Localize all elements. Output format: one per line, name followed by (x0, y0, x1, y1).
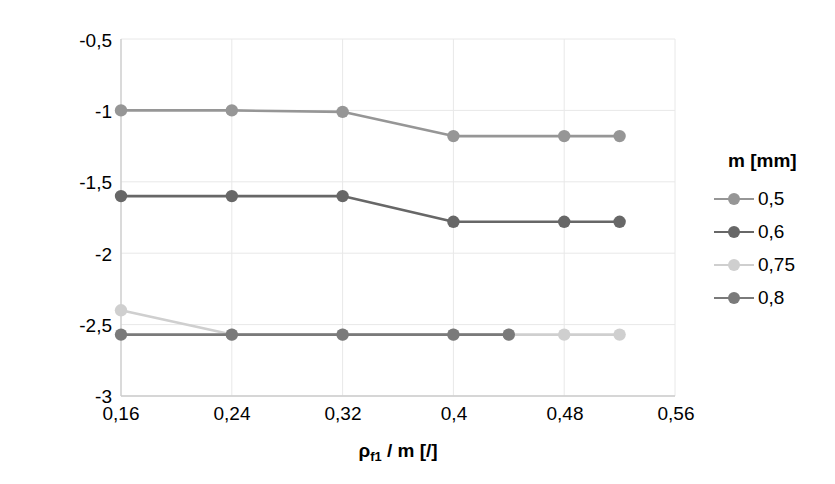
chart-figure: zσGEHMax - zNK [mm] -0,5 -1 -1,5 -2 -2,5… (0, 0, 835, 484)
data-point (558, 216, 570, 228)
grid-lines (121, 39, 675, 396)
data-point (447, 328, 459, 340)
legend-swatch (714, 290, 754, 306)
legend-item[interactable]: 0,5 (714, 182, 834, 215)
data-point (558, 328, 570, 340)
legend-marker-icon (728, 259, 740, 271)
data-point (447, 216, 459, 228)
series-line (121, 110, 620, 136)
legend-item-label: 0,6 (758, 222, 784, 241)
data-point (336, 190, 348, 202)
data-point (613, 328, 625, 340)
data-point (336, 106, 348, 118)
series-lines (115, 104, 626, 341)
data-point (503, 328, 515, 340)
legend-item[interactable]: 0,8 (714, 281, 834, 314)
legend-swatch (714, 191, 754, 207)
legend: m [mm] 0,50,60,750,8 (714, 150, 834, 314)
data-point (613, 130, 625, 142)
data-point (226, 190, 238, 202)
data-point (558, 130, 570, 142)
legend-marker-icon (728, 292, 740, 304)
legend-item-label: 0,75 (758, 255, 795, 274)
series-0-6 (115, 190, 626, 228)
data-point (115, 190, 127, 202)
plot-area (0, 0, 835, 484)
data-point (226, 328, 238, 340)
data-point (447, 130, 459, 142)
series-line (121, 196, 620, 222)
legend-item-list: 0,50,60,750,8 (714, 182, 834, 314)
legend-item[interactable]: 0,75 (714, 248, 834, 281)
legend-marker-icon (728, 226, 740, 238)
legend-swatch (714, 257, 754, 273)
series-line (121, 310, 620, 334)
data-point (336, 328, 348, 340)
legend-swatch (714, 224, 754, 240)
data-point (115, 328, 127, 340)
data-point (613, 216, 625, 228)
data-point (226, 104, 238, 116)
legend-item-label: 0,8 (758, 288, 784, 307)
legend-title: m [mm] (728, 150, 834, 172)
legend-marker-icon (728, 193, 740, 205)
legend-item-label: 0,5 (758, 189, 784, 208)
legend-item[interactable]: 0,6 (714, 215, 834, 248)
series-0-8 (115, 328, 515, 340)
data-point (115, 104, 127, 116)
data-point (115, 304, 127, 316)
